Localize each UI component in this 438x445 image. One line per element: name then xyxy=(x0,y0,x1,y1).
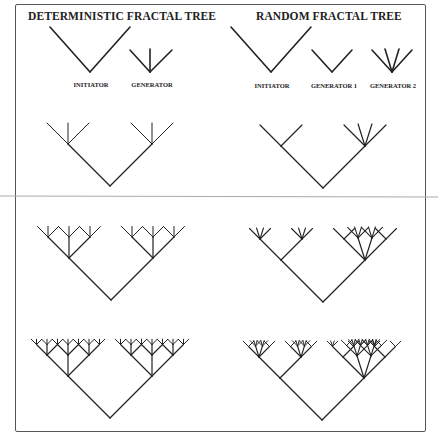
rand-tree-stage-2 xyxy=(250,227,397,302)
rand-generator-2-shape xyxy=(372,49,412,72)
det-tree-stage-1 xyxy=(47,123,173,186)
det-generator-shape xyxy=(130,49,172,72)
rand-tree-stage-3 xyxy=(243,339,401,420)
det-tree-stage-3 xyxy=(31,339,189,418)
fractal-tree-diagram xyxy=(0,0,438,445)
rand-generator-1-shape xyxy=(312,50,352,72)
rand-initiator-shape xyxy=(231,27,311,72)
det-initiator-shape xyxy=(50,27,130,72)
det-tree-stage-2 xyxy=(38,227,185,301)
rand-tree-stage-1 xyxy=(260,124,386,188)
